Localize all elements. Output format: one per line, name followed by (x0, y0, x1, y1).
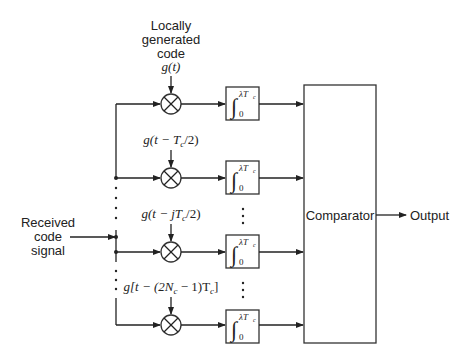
input-bus (114, 104, 118, 325)
svg-text:λT: λT (238, 312, 249, 322)
comparator-block: Comparator (304, 85, 376, 343)
input-line-1: Received (21, 215, 75, 230)
reference-label-1: g(t − Tc/2) (143, 132, 198, 149)
ellipsis-1 (242, 208, 244, 224)
integrator-box-2: ∫ λT c 0 (226, 235, 259, 268)
output-label: Output (410, 208, 449, 223)
integrator-box-1: ∫ λT c 0 (226, 161, 259, 194)
reference-label-2: g(t − jTc/2) (141, 206, 200, 223)
local-code-line-1: Locally (151, 18, 192, 33)
svg-text:c: c (253, 317, 256, 323)
input-line-2: code (34, 229, 62, 244)
comparator-label: Comparator (306, 208, 375, 223)
correlator-diagram: Locally generated code g(t) Received cod… (0, 0, 472, 361)
multiplier-icon (161, 168, 181, 188)
reference-label-0: g(t) (162, 59, 181, 74)
multiplier-icon (161, 94, 181, 114)
integrator-box-3: ∫ λT c 0 (226, 310, 259, 343)
svg-text:c: c (253, 94, 256, 100)
input-label: Received code signal (21, 215, 75, 258)
svg-text:λT: λT (238, 163, 249, 173)
svg-text:0: 0 (239, 183, 244, 193)
svg-text:c: c (253, 168, 256, 174)
input-line-3: signal (31, 243, 65, 258)
svg-text:λT: λT (238, 237, 249, 247)
branch-0: ∫ λT c 0 (116, 76, 303, 120)
svg-text:0: 0 (239, 257, 244, 267)
branch-2: g(t − jTc/2) ∫ λT c 0 (116, 206, 303, 268)
local-code-label: Locally generated code g(t) (142, 18, 201, 74)
local-code-line-2: generated (142, 32, 201, 47)
integrator-box-0: ∫ λT c 0 (226, 87, 259, 120)
svg-text:0: 0 (239, 109, 244, 119)
svg-text:0: 0 (239, 332, 244, 342)
multiplier-icon (161, 242, 181, 262)
branch-1: g(t − Tc/2) ∫ λT c 0 (116, 132, 303, 194)
svg-text:λT: λT (238, 89, 249, 99)
branch-3: g[t − (2Nc − 1)Tc] ∫ λT c 0 (116, 279, 303, 343)
reference-label-3: g[t − (2Nc − 1)Tc] (124, 279, 219, 296)
multiplier-icon (161, 315, 181, 335)
svg-text:c: c (253, 242, 256, 248)
ellipsis-2 (242, 282, 244, 298)
